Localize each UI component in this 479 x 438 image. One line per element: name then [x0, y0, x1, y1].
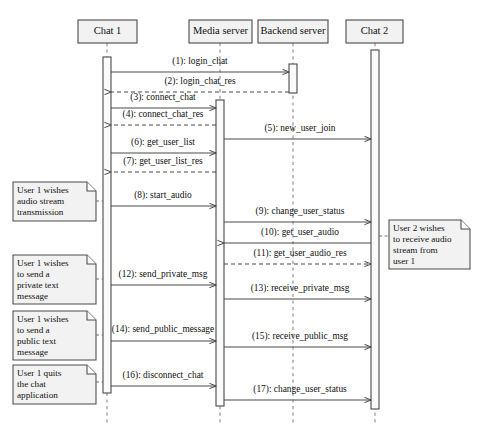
- message-label-5: (5): new_user_join: [264, 123, 335, 134]
- message-15: (15): receive_public_msg: [224, 331, 371, 347]
- message-label-8: (8): start_audio: [134, 190, 192, 201]
- sequence-diagram-canvas: Chat 1Media serverBackend serverChat 2 (…: [0, 0, 479, 438]
- lifeline-head-label-chat2: Chat 2: [361, 25, 389, 36]
- note-line-note-user2: to receive audio: [393, 234, 452, 244]
- note-line-note-public: User 1 wishes: [17, 314, 69, 324]
- activation-bar-chat2: [371, 50, 379, 409]
- message-1: (1): login_chat: [111, 56, 289, 72]
- note-line-note-quit: application: [17, 390, 58, 400]
- message-label-4: (4): connect_chat_res: [123, 109, 204, 120]
- message-11: (11): get_user_audio_res: [224, 248, 371, 264]
- sequence-diagram-svg: Chat 1Media serverBackend serverChat 2 (…: [0, 0, 479, 438]
- note-line-note-user2: user 1: [393, 256, 416, 266]
- note-fold-icon-note-user2: [461, 220, 470, 229]
- lifeline-head-label-backend: Backend server: [260, 25, 326, 36]
- note-line-note-private: message: [17, 291, 48, 301]
- message-layer: (1): login_chat(2): login_chat_res(3): c…: [111, 56, 371, 400]
- note-line-note-quit: User 1 quits: [17, 368, 62, 378]
- message-label-12: (12): send_private_msg: [119, 269, 208, 280]
- note-line-note-audio: audio stream: [17, 196, 64, 206]
- note-line-note-audio: transmission: [17, 207, 64, 217]
- note-line-note-public: to send a: [17, 325, 50, 335]
- message-label-14: (14): send_public_message: [112, 324, 214, 335]
- message-label-16: (16): disconnect_chat: [123, 370, 204, 381]
- note-line-note-quit: the chat: [17, 379, 46, 389]
- message-label-7: (7): get_user_list_res: [123, 156, 203, 167]
- note-line-note-user2: User 2 wishes: [393, 223, 445, 233]
- note-note-quit: User 1 quitsthe chatapplication: [13, 365, 103, 404]
- note-line-note-user2: stream from: [393, 245, 438, 255]
- lifeline-head-label-chat1: Chat 1: [94, 25, 122, 36]
- message-10: (10): get_user_audio: [224, 227, 371, 243]
- message-5: (5): new_user_join: [224, 123, 371, 139]
- message-label-1: (1): login_chat: [172, 56, 228, 67]
- message-7: (7): get_user_list_res: [111, 156, 216, 172]
- note-layer: User 1 wishesaudio streamtransmissionUse…: [13, 182, 470, 404]
- note-line-note-audio: User 1 wishes: [17, 185, 69, 195]
- message-16: (16): disconnect_chat: [111, 370, 216, 386]
- message-label-15: (15): receive_public_msg: [252, 331, 348, 342]
- message-label-6: (6): get_user_list: [131, 137, 195, 148]
- message-label-11: (11): get_user_audio_res: [253, 248, 346, 259]
- message-2: (2): login_chat_res: [111, 76, 289, 92]
- message-label-2: (2): login_chat_res: [164, 76, 235, 87]
- lifeline-head-label-media: Media server: [193, 25, 249, 36]
- activation-bar-media: [216, 100, 224, 406]
- note-line-note-private: to send a: [17, 269, 50, 279]
- message-13: (13): receive_private_msg: [224, 283, 371, 299]
- message-9: (9): change_user_status: [224, 206, 371, 222]
- message-8: (8): start_audio: [111, 190, 216, 206]
- note-line-note-private: User 1 wishes: [17, 258, 69, 268]
- message-14: (14): send_public_message: [111, 324, 216, 341]
- message-label-3: (3): connect_chat: [130, 92, 196, 103]
- message-4: (4): connect_chat_res: [111, 109, 216, 125]
- message-3: (3): connect_chat: [111, 92, 216, 108]
- note-note-user2: User 2 wishesto receive audiostream from…: [379, 220, 470, 269]
- message-12: (12): send_private_msg: [111, 269, 216, 285]
- message-6: (6): get_user_list: [111, 137, 216, 153]
- activation-bar-backend: [289, 64, 297, 93]
- note-line-note-private: private text: [17, 280, 59, 290]
- message-label-17: (17): change_user_status: [253, 384, 347, 395]
- activation-bar-chat1: [103, 57, 111, 393]
- note-line-note-public: public text: [17, 336, 56, 346]
- note-line-note-public: message: [17, 347, 48, 357]
- message-label-13: (13): receive_private_msg: [251, 283, 350, 294]
- message-label-10: (10): get_user_audio: [261, 227, 339, 238]
- note-note-private: User 1 wishesto send aprivate textmessag…: [13, 255, 103, 304]
- message-label-9: (9): change_user_status: [256, 206, 345, 217]
- note-note-audio: User 1 wishesaudio streamtransmission: [13, 182, 103, 221]
- message-17: (17): change_user_status: [224, 384, 371, 400]
- note-note-public: User 1 wishesto send apublic textmessage: [13, 311, 103, 360]
